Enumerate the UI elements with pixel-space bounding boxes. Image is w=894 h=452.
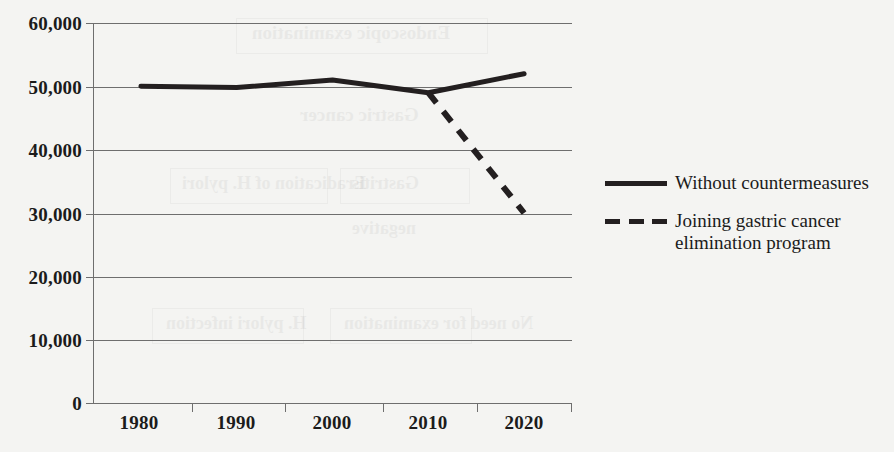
legend-item-joining-program: Joining gastric cancer elimination progr…	[605, 210, 890, 254]
dashed-line-marker	[605, 210, 667, 232]
chart-legend: Without countermeasures Joining gastric …	[605, 172, 890, 271]
legend-item-without-countermeasures: Without countermeasures	[605, 172, 890, 194]
solid-line-marker	[605, 172, 667, 194]
chart-page: Endoscopic examination Gastric cancer Er…	[0, 0, 894, 452]
legend-label-without-countermeasures: Without countermeasures	[675, 172, 869, 194]
series-joining-gastric-cancer-elimination-program	[428, 93, 524, 213]
legend-label-joining-program: Joining gastric cancer elimination progr…	[675, 210, 890, 254]
series-without-countermeasures	[141, 74, 524, 93]
